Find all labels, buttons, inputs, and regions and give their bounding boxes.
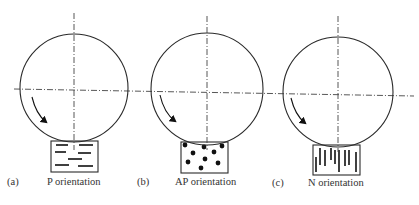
panel-c-caption: N orientation [308,178,364,189]
grain-dot [186,160,191,165]
grain-dot [220,144,225,149]
panel-b-ap-orientation [151,16,263,173]
panel-b-caption: AP orientation [175,177,236,188]
grain-dot [191,151,196,156]
grain-dot [183,143,188,148]
panel-a-letter: (a) [7,177,19,188]
figure: (a) P orientation (b) AP orientation (c)… [0,0,419,205]
panel-c-letter: (c) [272,178,284,189]
grain-dot [212,150,217,155]
grain-dot [199,166,204,171]
rotation-arrow-icon [32,97,46,122]
orientation-diagram [0,0,419,205]
panel-b-letter: (b) [137,177,149,188]
rotation-arrow-icon [160,95,175,121]
panel-c-n-orientation [283,16,393,175]
grain-dot [216,161,221,166]
rotation-arrow-icon [291,98,305,123]
panel-a-caption: P orientation [47,177,101,188]
panel-a-p-orientation [20,13,128,172]
grain-dot [203,157,208,162]
